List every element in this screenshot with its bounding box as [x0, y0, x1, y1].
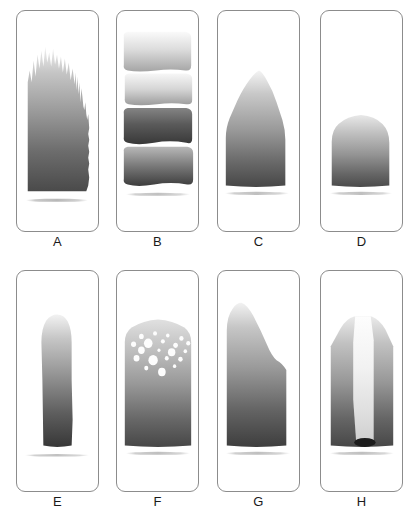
panel-A-shadow [26, 199, 88, 202]
panel-B-band-4 [124, 147, 193, 186]
panel-A-frame [16, 10, 99, 232]
panel-E-shape [41, 315, 72, 447]
panel-B-specimen [117, 11, 198, 231]
panel-label-E: E [16, 494, 99, 509]
panel-A-specimen [17, 11, 98, 231]
panel-H-ellipse [354, 438, 375, 447]
panel-H-specimen [321, 271, 402, 491]
panel-label-C: C [217, 234, 300, 249]
panel-C[interactable] [217, 10, 300, 232]
panel-E-shadow [25, 454, 89, 457]
panel-C-specimen [218, 11, 299, 231]
panel-H-frame [320, 270, 403, 492]
panel-F[interactable] [116, 270, 199, 492]
panel-label-D: D [320, 234, 403, 249]
panel-D-shape [332, 115, 390, 187]
panel-B-band-1 [124, 32, 191, 72]
panel-B-band-2 [125, 73, 193, 105]
panel-C-frame [217, 10, 300, 232]
panel-E-specimen [17, 271, 98, 491]
panel-label-A: A [16, 234, 99, 249]
panel-B-band-3 [124, 108, 192, 144]
panel-A[interactable] [16, 10, 99, 232]
panel-G-frame [217, 270, 300, 492]
panel-B[interactable] [116, 10, 199, 232]
panel-B-frame [116, 10, 199, 232]
panel-figure: A [0, 0, 417, 520]
panel-C-shape [226, 70, 286, 186]
panel-F-frame [116, 270, 199, 492]
panel-D-specimen [321, 11, 402, 231]
panel-G-shadow [226, 452, 290, 455]
panel-label-F: F [116, 494, 199, 509]
panel-G-specimen [218, 271, 299, 491]
panel-H[interactable] [320, 270, 403, 492]
panel-B-shadow [126, 193, 190, 196]
panel-label-G: G [217, 494, 300, 509]
panel-H-stripe [353, 317, 373, 442]
panel-D-frame [320, 10, 403, 232]
panel-G[interactable] [217, 270, 300, 492]
panel-F-specimen [117, 271, 198, 491]
panel-E[interactable] [16, 270, 99, 492]
panel-G-shape [227, 303, 287, 447]
panel-H-shadow [330, 452, 394, 455]
panel-D-shadow [330, 192, 392, 195]
panel-label-H: H [320, 494, 403, 509]
panel-A-shape [28, 47, 89, 192]
panel-label-B: B [116, 234, 199, 249]
panel-F-shadow [126, 452, 190, 455]
panel-E-frame [16, 270, 99, 492]
panel-C-shadow [225, 192, 289, 195]
panel-D[interactable] [320, 10, 403, 232]
